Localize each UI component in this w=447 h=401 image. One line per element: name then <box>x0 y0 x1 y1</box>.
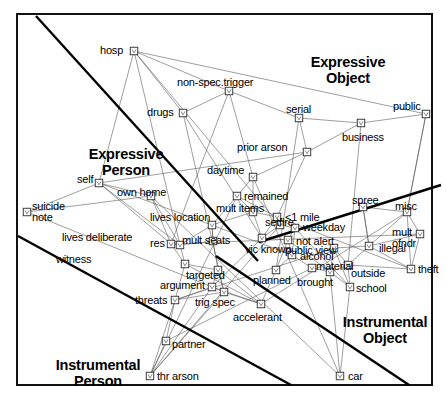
point-marker <box>167 240 175 248</box>
point-label: illegal <box>379 243 406 254</box>
point-label: accelerant <box>233 312 282 323</box>
point-marker <box>272 266 280 274</box>
point-marker <box>233 192 241 200</box>
point-label: spree <box>352 195 379 206</box>
point-marker <box>220 288 228 296</box>
point-label: brought <box>297 277 333 288</box>
point-marker <box>95 179 103 187</box>
point-label: res <box>150 238 165 249</box>
point-label: suicide note <box>32 201 65 223</box>
point-connector <box>277 152 307 217</box>
point-label: own home <box>117 187 166 198</box>
point-label: remained <box>244 191 288 202</box>
point-marker <box>23 208 31 216</box>
point-marker <box>407 265 415 273</box>
point-label: theft <box>418 264 438 275</box>
point-label: planned <box>253 275 291 286</box>
point-marker <box>162 337 170 345</box>
point-label: school <box>356 283 387 294</box>
point-marker <box>208 283 216 291</box>
point-label: outside <box>351 268 385 279</box>
point-label: business <box>342 132 384 143</box>
point-label: thr arson <box>157 371 199 382</box>
point-connector-long <box>27 212 212 287</box>
point-label: misc <box>395 201 417 212</box>
region-label-expressive-object: Expressive Object <box>311 54 386 86</box>
point-marker <box>308 264 316 272</box>
point-label: lives location <box>150 212 210 223</box>
region-label-instrumental-person: Instrumental Person <box>56 357 141 389</box>
point-marker <box>146 372 154 380</box>
point-label: argument <box>160 280 205 291</box>
point-label: prior arson <box>237 142 287 153</box>
point-label: trig spec <box>195 297 235 308</box>
point-marker <box>357 119 365 127</box>
expressive-person-object-divider <box>36 16 258 261</box>
point-marker <box>171 296 179 304</box>
point-label: mult seats <box>182 235 230 246</box>
region-label-expressive-person: Expressive Person <box>89 146 164 178</box>
point-marker <box>346 283 354 291</box>
point-marker <box>303 148 311 156</box>
point-label: daytime <box>207 165 244 176</box>
point-label: non-spec.trigger <box>177 77 253 88</box>
point-connector-long <box>407 114 426 212</box>
point-label: lives deliberate <box>62 232 132 243</box>
point-label: public <box>393 101 421 112</box>
point-connector <box>299 118 307 152</box>
point-marker <box>179 109 187 117</box>
point-label: witness <box>56 254 91 265</box>
point-label: mult items <box>216 203 264 214</box>
point-connector <box>299 118 361 123</box>
point-marker <box>249 173 257 181</box>
point-marker <box>336 372 344 380</box>
point-label: material <box>316 261 354 272</box>
ssa-plot-figure: hospnon-spec.triggerdrugsserialpublicbus… <box>0 0 447 401</box>
point-label: weekday <box>303 222 345 233</box>
point-marker <box>130 47 138 55</box>
point-marker <box>365 242 373 250</box>
point-marker <box>257 300 265 308</box>
point-marker <box>416 230 424 238</box>
point-marker <box>422 110 430 118</box>
point-marker <box>181 260 189 268</box>
point-label: partner <box>172 339 205 350</box>
point-marker <box>295 114 303 122</box>
point-label: threats <box>135 295 167 306</box>
point-connector-long <box>363 207 369 246</box>
point-label: car <box>348 371 363 382</box>
region-label-instrumental-object: Instrumental Object <box>343 314 428 346</box>
point-label: serial <box>286 104 311 115</box>
point-label: drugs <box>147 107 174 118</box>
point-label: hosp <box>100 45 123 56</box>
point-marker <box>258 234 266 242</box>
point-connector <box>361 114 426 123</box>
point-marker <box>225 87 233 95</box>
